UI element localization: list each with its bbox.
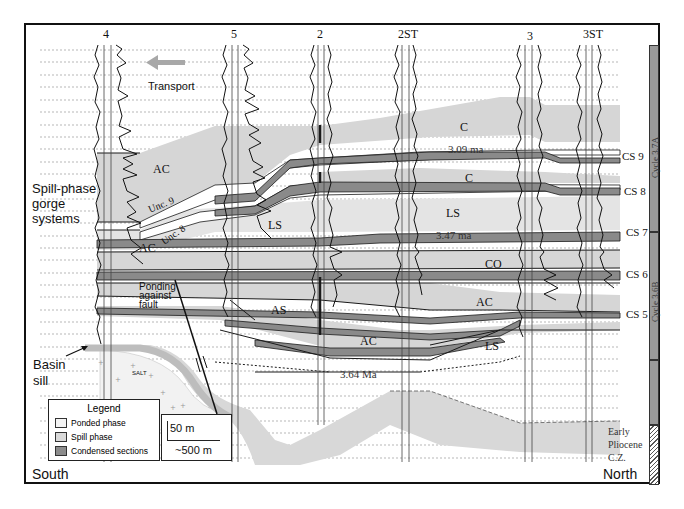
cycle-label: Cycle 3.6B (650, 282, 660, 323)
well-label: 2 (317, 28, 323, 40)
cs-label: CS 9 (622, 151, 644, 162)
unit-label: AC (139, 242, 156, 254)
svg-text:+: + (170, 404, 176, 412)
cs-label: CS 8 (624, 186, 646, 197)
unit-label: AC (476, 296, 493, 308)
legend-item-ponded: Ponded phase (55, 418, 126, 428)
scale-box: 50 m ~500 m (161, 414, 232, 461)
cycle-bar (649, 45, 659, 485)
unit-label: C (460, 121, 468, 133)
early-pliocene-label-3: C.Z. (608, 453, 626, 463)
unit-label: CO (485, 258, 502, 270)
well-label: 2ST (398, 28, 418, 40)
cycle-label: Cycle 3.7A (650, 137, 660, 178)
legend: Legend Ponded phase Spill phase Condense… (48, 399, 160, 461)
cs-label: CS 5 (626, 309, 648, 320)
svg-text:+: + (130, 362, 136, 370)
well-label: 3 (527, 30, 533, 42)
unit-label: C (465, 172, 473, 184)
age-label: 3.09 ma (448, 144, 483, 155)
north-label: North (603, 467, 637, 481)
well-label: 5 (231, 28, 237, 40)
south-label: South (32, 467, 69, 481)
unit-label: AC (153, 163, 170, 175)
cs-label: CS 6 (626, 269, 648, 280)
transport-arrow (146, 55, 185, 70)
legend-item-spill: Spill phase (55, 432, 113, 442)
spill-phase-label-3: systems (32, 212, 80, 225)
swatch-condensed (55, 446, 67, 456)
scale-horizontal-bar (167, 440, 220, 441)
svg-text:+: + (98, 359, 104, 367)
cycle-lower-segment (649, 360, 659, 425)
unit-label: LS (485, 340, 499, 352)
transport-label: Transport (148, 81, 195, 92)
age-label: 3.47 ma (436, 230, 471, 241)
basin-sill-label-1: Basin (33, 358, 66, 371)
scale-vertical-label: 50 m (170, 423, 194, 434)
unit-label: LS (446, 207, 460, 219)
svg-text:+: + (180, 402, 186, 410)
well-label: 3ST (583, 28, 603, 40)
legend-item-condensed: Condensed sections (55, 446, 148, 456)
well-label: 4 (103, 28, 109, 40)
unit-label: LS (268, 219, 282, 231)
spill-phase-label-2: gorge (32, 197, 65, 210)
svg-text:+: + (160, 389, 166, 397)
early-pliocene-label-1: Early (608, 427, 630, 437)
legend-title: Legend (49, 403, 159, 414)
cs-label: CS 7 (626, 227, 648, 238)
scale-horizontal-label: ~500 m (175, 445, 212, 456)
early-pliocene-label-2: Pliocene (608, 440, 642, 450)
unit-label: AC (360, 335, 377, 347)
cycle-hatched-segment (649, 425, 659, 485)
svg-text:+: + (115, 376, 121, 384)
swatch-spill (55, 432, 67, 442)
basin-sill-label-2: sill (33, 374, 48, 387)
unit-label: AS (271, 304, 286, 316)
spill-phase-label-1: Spill-phase (32, 182, 96, 195)
age-label: 3.64 Ma (340, 369, 377, 380)
swatch-ponded (55, 418, 67, 428)
scale-vertical-bar (167, 421, 168, 440)
ponding-label-3: fault (139, 300, 158, 310)
svg-text:+: + (148, 372, 154, 380)
salt-label: SALT (132, 370, 147, 376)
